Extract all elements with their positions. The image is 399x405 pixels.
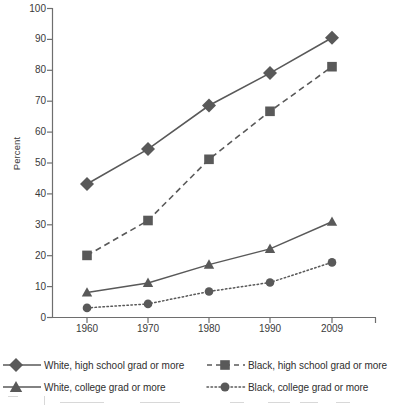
legend-marker-circle-dotted [206, 378, 246, 396]
x-tick-labels: 1960 1970 1980 1990 2009 [0, 0, 399, 345]
legend-marker-triangle-solid [2, 378, 42, 396]
legend-item-black-high-school: Black, high school grad or more [206, 354, 387, 376]
plot-area: Percent 100 90 80 70 60 50 40 30 20 10 0… [0, 0, 399, 345]
legend-label: Black, high school grad or more [246, 360, 387, 371]
chart-figure: Percent 100 90 80 70 60 50 40 30 20 10 0… [0, 0, 399, 405]
legend-marker-square-dashed [206, 356, 246, 374]
legend-marker-diamond-solid [2, 356, 42, 374]
x-tick-label: 1970 [124, 323, 172, 334]
legend-label: White, college grad or more [42, 382, 165, 393]
page-bleed-artifact [0, 396, 399, 405]
legend-item-black-college: Black, college grad or more [206, 376, 368, 398]
legend-item-white-high-school: White, high school grad or more [2, 354, 184, 376]
x-tick-label: 1960 [63, 323, 111, 334]
legend-item-white-college: White, college grad or more [2, 376, 165, 398]
chart-legend: White, high school grad or more White, c… [0, 348, 399, 400]
x-tick-label: 1990 [246, 323, 294, 334]
x-tick-label: 2009 [308, 323, 356, 334]
x-tick-label: 1980 [185, 323, 233, 334]
legend-label: White, high school grad or more [42, 360, 184, 371]
legend-label: Black, college grad or more [246, 382, 368, 393]
